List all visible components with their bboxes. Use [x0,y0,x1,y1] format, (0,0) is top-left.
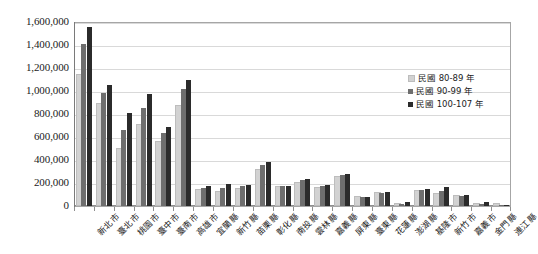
bar [484,202,489,206]
x-axis-tick [94,207,95,211]
legend-item[interactable]: 民國 100-107 年 [408,98,520,110]
bar-group [136,22,152,206]
legend-swatch-icon [408,102,413,107]
bars-layer [74,22,511,207]
bar [121,130,126,206]
legend-label: 民國 100-107 年 [416,100,484,109]
bar [186,80,191,207]
bar [345,174,350,206]
legend-swatch-icon [408,89,413,94]
bar-group [334,22,350,206]
bar [499,205,504,206]
x-axis-tick [74,207,75,211]
bar [379,193,384,206]
bar [459,196,464,206]
bar [419,190,424,206]
bar-group [394,22,410,206]
bar-group [473,22,489,206]
bar-group [96,22,112,206]
bar [385,192,390,206]
bar [266,162,271,206]
legend-swatch-icon [408,75,415,82]
bar [161,133,166,206]
bar [340,175,345,206]
y-axis-tick-label: 800,000 [0,108,69,119]
bar-group [255,22,271,206]
bar [464,195,469,206]
legend-item[interactable]: 民國 90-99 年 [408,85,520,97]
bar-group [116,22,132,206]
bar [504,205,509,206]
bar [280,186,285,206]
bar [141,108,146,206]
y-axis-tick-label: 600,000 [0,131,69,142]
bar-group [493,22,509,206]
y-axis-tick-label: 400,000 [0,154,69,165]
y-axis-tick-label: 1,000,000 [0,85,69,96]
legend-label: 民國 80-89 年 [418,74,475,83]
bar [399,204,404,206]
bar [166,127,171,206]
bar-group [354,22,370,206]
bar [260,165,265,206]
bar [127,113,132,206]
legend-item[interactable]: 民國 80-89 年 [408,72,520,84]
bar-group [76,22,92,206]
bar-group [414,22,430,206]
bar [300,180,305,206]
y-axis-tick-label: 200,000 [0,177,69,188]
bar [101,93,106,206]
bar [444,187,449,206]
bar [360,197,365,206]
bar [439,191,444,206]
bar-group [195,22,211,206]
bar [206,186,211,206]
bar [305,179,310,206]
y-axis-tick-label: 0 [0,200,69,211]
bar [405,202,410,206]
bar [325,185,330,206]
bar-group [314,22,330,206]
bar [87,27,92,206]
bar-group [433,22,449,206]
bar [201,188,206,206]
bar-group [453,22,469,206]
y-axis-tick-label: 1,200,000 [0,62,69,73]
bar [246,185,251,206]
bar [286,186,291,206]
bar [147,94,152,206]
bar [107,85,112,206]
x-axis-tick [471,207,472,211]
legend: 民國 80-89 年民國 90-99 年民國 100-107 年 [408,72,520,111]
bar-group [275,22,291,206]
bar-group [215,22,231,206]
bar-group [155,22,171,206]
bar [240,186,245,206]
bar-group [235,22,251,206]
legend-label: 民國 90-99 年 [416,87,473,96]
bar-group [374,22,390,206]
y-axis-tick-label: 1,400,000 [0,39,69,50]
bar [226,184,231,206]
bar [365,197,370,206]
bar [425,189,430,206]
bar-group [294,22,310,206]
bar [181,89,186,206]
bar-group [175,22,191,206]
bar [220,188,225,206]
y-axis-tick-label: 1,600,000 [0,16,69,27]
bar [320,186,325,206]
bar [81,44,86,206]
bar [479,204,484,206]
